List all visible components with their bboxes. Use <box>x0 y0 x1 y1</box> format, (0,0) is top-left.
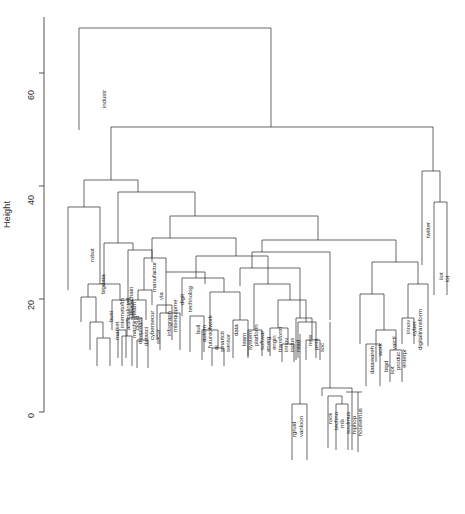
leaf-label: digitaltransform <box>416 309 423 350</box>
leaf-label: twitter <box>424 222 431 238</box>
leaf-label: futureofwork <box>206 315 213 348</box>
y-axis <box>39 17 44 412</box>
leaf-label: secur <box>154 329 161 344</box>
leaf-label: busi <box>107 311 114 322</box>
leaf-label: cloud <box>133 316 140 330</box>
leaf-label: digit <box>178 294 185 305</box>
leaf-label: work <box>376 343 383 356</box>
leaf-label: vanloon <box>297 416 304 437</box>
leaf-label: manufactur <box>150 262 157 292</box>
leaf-label: rgruid <box>290 422 297 437</box>
leaf-label: enterpr <box>400 349 407 368</box>
leaf-label: vaictl <box>390 337 397 351</box>
leaf-label: via <box>157 292 164 300</box>
leaf-label: sensor <box>224 334 231 352</box>
leaf-label: misequipme <box>171 300 178 332</box>
dendrogram-figure: Height 0 20 40 60 <box>0 0 465 514</box>
leaf-label: data <box>232 324 239 336</box>
dendrogram-canvas <box>0 0 465 514</box>
leaf-label: blockchain <box>127 287 134 315</box>
leaf-label: industr <box>100 90 107 108</box>
leaf-label: robot <box>88 248 95 262</box>
leaf-label: bigdata <box>99 274 106 294</box>
leaf-label: read <box>294 340 301 352</box>
leaf-label: housemus <box>356 408 363 436</box>
leaf-label: iot <box>443 276 450 282</box>
dendrogram-links <box>68 28 447 460</box>
leaf-label: technolog <box>186 286 193 312</box>
leaf-label: datawareh <box>368 346 375 374</box>
leaf-label: soc <box>318 343 325 352</box>
